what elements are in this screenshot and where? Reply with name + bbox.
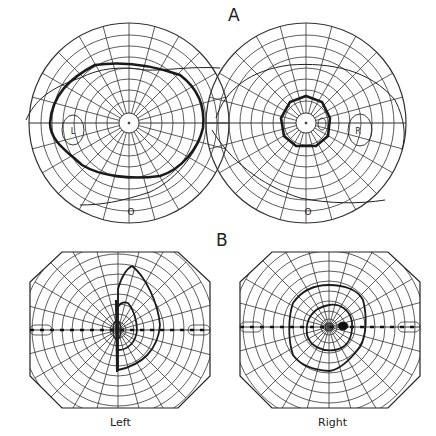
chart-a-right xyxy=(206,23,406,223)
blind-spot-label-r: R xyxy=(355,127,361,136)
eye-label-right: Right xyxy=(318,416,347,429)
scotoma-right-b xyxy=(338,322,348,330)
panel-label-b: B xyxy=(216,230,228,250)
panel-label-a: A xyxy=(228,5,240,25)
chart-b-left xyxy=(20,234,216,426)
bottom-marker-left: O xyxy=(127,207,134,217)
chart-b-right xyxy=(231,231,427,423)
eye-label-left: Left xyxy=(110,416,131,429)
bottom-marker-right: O xyxy=(304,207,311,217)
visual-field-figure: L O R O xyxy=(0,0,436,436)
blind-spot-label-l: L xyxy=(71,127,76,136)
chart-a-left xyxy=(26,23,229,223)
